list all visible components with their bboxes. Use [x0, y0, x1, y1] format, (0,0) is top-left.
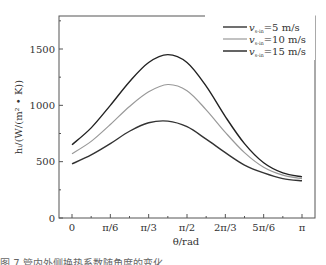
svg-text:500: 500 — [36, 156, 55, 167]
y-axis: 050010001500 — [30, 21, 63, 224]
svg-text:π: π — [299, 222, 306, 233]
svg-text:1000: 1000 — [30, 100, 55, 111]
svg-text:0: 0 — [69, 222, 75, 233]
y-axis-label: hᵢ/(W/(m² • K)) — [13, 80, 24, 154]
x-axis-label: θ/rad — [173, 236, 200, 247]
svg-text:5π/6: 5π/6 — [252, 222, 275, 233]
svg-text:π/6: π/6 — [102, 222, 118, 233]
series-line — [72, 84, 302, 178]
svg-text:π/2: π/2 — [179, 222, 195, 233]
figure-caption: 图 7 管内外侧换热系数随角度的变化 — [0, 255, 326, 265]
legend: vs-in=5 m/s vs-in=10 m/s vs-in=15 m/s — [205, 14, 315, 60]
series-line — [72, 55, 302, 177]
svg-text:1500: 1500 — [30, 44, 55, 55]
svg-text:0: 0 — [49, 213, 55, 224]
svg-text:π/3: π/3 — [141, 222, 157, 233]
svg-text:2π/3: 2π/3 — [214, 222, 237, 233]
x-axis: 0π/6π/3π/22π/35π/6π — [69, 214, 306, 233]
series-line — [72, 121, 302, 181]
series-lines — [72, 55, 302, 181]
